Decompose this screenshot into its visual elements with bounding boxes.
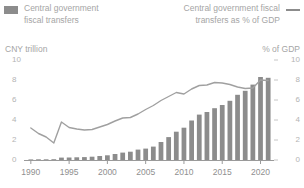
- plot-area: 1086420 1086420 199019952000200520102015…: [0, 0, 304, 188]
- bar-2015: [220, 105, 225, 160]
- right-tick-label: 6: [288, 96, 300, 104]
- bar-1999: [97, 156, 102, 160]
- right-tick-label: 2: [288, 136, 300, 144]
- bar-2017: [235, 95, 240, 160]
- x-tick-label-2010: 2010: [174, 168, 193, 177]
- bar-1992: [44, 159, 49, 160]
- bar-1995: [67, 158, 72, 161]
- bar-2001: [113, 154, 118, 160]
- bar-1991: [36, 159, 41, 160]
- bar-2004: [136, 150, 141, 160]
- left-tick-label: 0: [12, 156, 24, 164]
- left-tick-label: 2: [12, 136, 24, 144]
- x-tick-label-2020: 2020: [251, 168, 270, 177]
- x-tick-label-1995: 1995: [60, 168, 79, 177]
- bar-2021: [266, 78, 271, 160]
- x-tick-label-2000: 2000: [98, 168, 117, 177]
- bar-2000: [105, 155, 110, 160]
- bar-2002: [120, 153, 125, 160]
- left-tick-label: 8: [12, 76, 24, 84]
- bar-2012: [197, 115, 202, 160]
- bar-2020: [258, 77, 263, 160]
- x-tick-label-2015: 2015: [213, 168, 232, 177]
- bar-1993: [51, 159, 56, 160]
- bar-2016: [228, 101, 233, 160]
- left-tick-label: 6: [12, 96, 24, 104]
- bar-group: [28, 77, 270, 160]
- bar-2010: [182, 128, 187, 160]
- bar-1997: [82, 157, 87, 160]
- bar-1996: [74, 157, 79, 160]
- bar-2007: [159, 142, 164, 160]
- plot-svg: [0, 0, 304, 188]
- left-tick-label: 10: [12, 56, 24, 64]
- right-tick-label: 4: [288, 116, 300, 124]
- bar-2019: [250, 85, 255, 160]
- bar-2013: [205, 112, 210, 160]
- bar-1990: [28, 159, 33, 160]
- bar-2009: [174, 132, 179, 160]
- gdp-percent-line: [31, 80, 268, 143]
- right-tick-label: 0: [288, 156, 300, 164]
- bar-2018: [243, 91, 248, 160]
- x-tick-label-1990: 1990: [21, 168, 40, 177]
- bar-2011: [189, 121, 194, 161]
- fiscal-transfers-chart: Central government fiscal transfers Cent…: [0, 0, 304, 188]
- right-tick-label: 10: [288, 56, 300, 64]
- x-tick-label-2005: 2005: [136, 168, 155, 177]
- bar-2014: [212, 108, 217, 160]
- bar-1994: [59, 158, 64, 160]
- bar-2003: [128, 152, 133, 160]
- bar-1998: [90, 157, 95, 160]
- left-tick-label: 4: [12, 116, 24, 124]
- bar-2006: [151, 147, 156, 160]
- right-tick-label: 8: [288, 76, 300, 84]
- bar-2008: [166, 137, 171, 160]
- bar-2005: [143, 149, 148, 160]
